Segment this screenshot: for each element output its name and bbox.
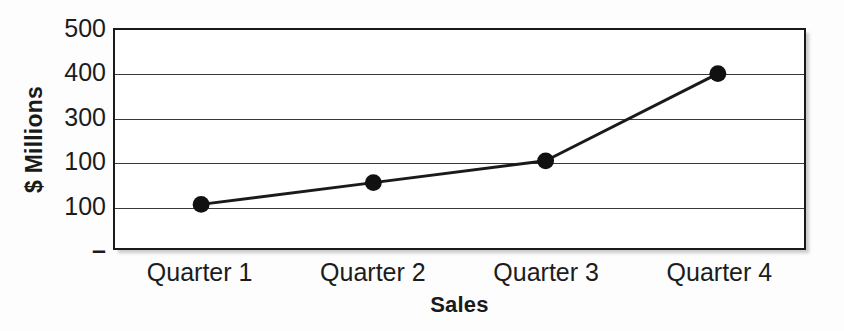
x-axis-tick-label: Quarter 1: [147, 258, 253, 287]
x-axis-tick-label: Quarter 4: [667, 258, 773, 287]
y-axis-title-label: $ Millions: [21, 86, 48, 193]
plot-area: Quarter 1: 100Quarter 2: 150Quarter 3: 2…: [113, 28, 806, 250]
x-axis-title: Sales: [113, 292, 806, 318]
series-polyline: [201, 74, 718, 205]
y-axis-tick-label: 300: [46, 104, 106, 129]
x-axis-tick-label: Quarter 2: [320, 258, 426, 287]
y-axis-tick-label: 100: [46, 193, 106, 218]
x-axis-title-label: Sales: [430, 292, 489, 317]
series-line-sales: Quarter 1: 100Quarter 2: 150Quarter 3: 2…: [115, 30, 804, 248]
line-chart: $ Millions 500400300100100– Quarter 1: 1…: [0, 0, 844, 331]
x-axis-tick-labels: Quarter 1Quarter 2Quarter 3Quarter 4: [113, 258, 806, 292]
y-axis-tick-label: 400: [46, 60, 106, 85]
data-point-marker: Quarter 2: 150: [365, 174, 382, 191]
data-point-marker: Quarter 1: 100: [193, 196, 210, 213]
y-axis-tick-label: 100: [46, 149, 106, 174]
y-axis-tick-label: 500: [46, 16, 106, 41]
data-point-marker: Quarter 4: 400: [709, 65, 726, 82]
data-point-marker: Quarter 3: 200: [537, 152, 554, 169]
x-axis-tick-label: Quarter 3: [493, 258, 599, 287]
y-axis-tick-label: –: [46, 238, 106, 263]
y-axis-tick-labels: 500400300100100–: [46, 0, 106, 331]
